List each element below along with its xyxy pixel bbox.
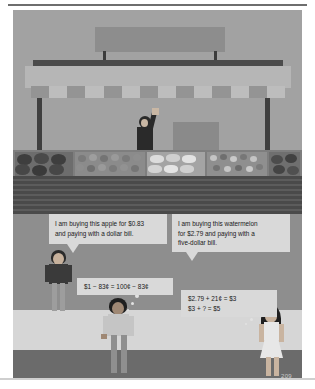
equation-watermelon-line1: $2.79 + 21¢ = $3	[188, 294, 270, 304]
page-bottom-rule	[0, 378, 315, 380]
awning-fringe	[31, 86, 285, 98]
vendor-crate	[173, 122, 219, 150]
bubble-right-line2: for $2.79 and paying with a	[178, 229, 284, 239]
bubble-left-tail	[67, 244, 79, 253]
bubble-right-line1: I am buying this watermelon	[178, 219, 284, 229]
bubble-left-line2: and paying with a dollar bill.	[55, 229, 161, 239]
equation-apple-line1: $1 − 83¢ = 100¢ − 83¢	[84, 282, 166, 292]
customer-buying-apple	[45, 250, 75, 312]
bubble-left-line1: I am buying this apple for $0.83	[55, 219, 161, 229]
equation-box-apple: $1 − 83¢ = 100¢ − 83¢	[77, 278, 173, 295]
speech-bubble-watermelon: I am buying this watermelon for $2.79 an…	[172, 214, 290, 252]
awning-pole-left	[37, 98, 42, 158]
speech-bubble-apple: I am buying this apple for $0.83 and pay…	[49, 214, 167, 244]
melon-bin	[269, 152, 300, 176]
textbook-page: I am buying this apple for $0.83 and pay…	[0, 0, 315, 389]
apple-bin	[75, 152, 145, 176]
awning-pole-right	[265, 98, 270, 158]
equation-watermelon-line2: $3 + ? = $5	[188, 304, 270, 314]
produce-counter-front	[13, 176, 302, 216]
equation-box-watermelon: $2.79 + 21¢ = $3 $3 + ? = $5	[181, 290, 277, 317]
awning-canopy	[25, 66, 291, 88]
page-top-rule	[8, 4, 307, 6]
customer-thinking	[103, 298, 137, 376]
squash-bin	[147, 152, 205, 176]
bubble-right-tail	[186, 252, 198, 261]
market-sign	[95, 27, 225, 52]
mixed-produce-bin	[207, 152, 267, 176]
market-scene-illustration: I am buying this apple for $0.83 and pay…	[13, 10, 302, 378]
watermelon-bin	[15, 152, 73, 176]
bubble-right-line3: five-dollar bill.	[178, 238, 284, 248]
market-vendor	[137, 110, 171, 154]
